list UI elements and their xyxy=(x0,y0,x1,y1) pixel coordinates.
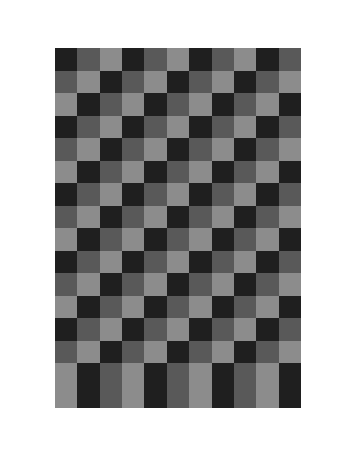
bottom-outer-frame-bar xyxy=(34,430,326,439)
grid-cell xyxy=(256,318,278,341)
grid-cell xyxy=(234,341,256,364)
grid-cell xyxy=(234,71,256,94)
grid-cell xyxy=(77,206,99,229)
grid-cell xyxy=(279,363,301,386)
grid-cell xyxy=(212,228,234,251)
grid-cell xyxy=(189,228,211,251)
grid-cell xyxy=(234,93,256,116)
grid-cell xyxy=(279,341,301,364)
grid-cell xyxy=(100,48,122,71)
grid-cell xyxy=(189,48,211,71)
grid-cell xyxy=(167,341,189,364)
grid-cell xyxy=(256,363,278,386)
grid-cell xyxy=(234,318,256,341)
grid-cell xyxy=(212,183,234,206)
grid-cell xyxy=(212,116,234,139)
grid-cell xyxy=(144,161,166,184)
grid-cell xyxy=(167,183,189,206)
pattern-canvas xyxy=(0,0,360,453)
grid-cell xyxy=(234,296,256,319)
grid-cell xyxy=(144,183,166,206)
grid-cell xyxy=(167,228,189,251)
grid-cell xyxy=(144,48,166,71)
grid-cell xyxy=(189,116,211,139)
grid-cell xyxy=(55,341,77,364)
grid-cell xyxy=(55,386,77,409)
grid-cell xyxy=(55,161,77,184)
grid-cell xyxy=(212,363,234,386)
grid-cell xyxy=(279,228,301,251)
grid-cell xyxy=(77,161,99,184)
grid-cell xyxy=(122,228,144,251)
grid-cell xyxy=(279,48,301,71)
grid-cell xyxy=(167,116,189,139)
grid-cell xyxy=(122,183,144,206)
grid-cell xyxy=(234,273,256,296)
top-outer-frame-bar xyxy=(34,15,326,24)
grid-cell xyxy=(256,341,278,364)
grid-cell xyxy=(234,138,256,161)
grid-cell xyxy=(100,161,122,184)
grid-cell xyxy=(279,318,301,341)
grid-cell xyxy=(77,138,99,161)
grid-cell xyxy=(189,273,211,296)
grid-cell xyxy=(167,93,189,116)
grid-cell xyxy=(144,138,166,161)
grid-cell xyxy=(189,161,211,184)
grid-cell xyxy=(279,116,301,139)
grid-cell xyxy=(189,363,211,386)
grid-cell xyxy=(189,296,211,319)
grid-cell xyxy=(144,363,166,386)
grid-cell xyxy=(55,296,77,319)
grid-cell xyxy=(100,116,122,139)
grid-cell xyxy=(100,71,122,94)
grid-cell xyxy=(167,296,189,319)
grid-cell xyxy=(55,363,77,386)
grid-cell xyxy=(212,296,234,319)
grid-cell xyxy=(77,93,99,116)
grid-cell xyxy=(77,48,99,71)
grid-cell xyxy=(234,116,256,139)
grid-cell xyxy=(256,273,278,296)
grid-cell xyxy=(212,93,234,116)
grid-cell xyxy=(144,228,166,251)
grid-cell xyxy=(144,273,166,296)
grid-cell xyxy=(189,71,211,94)
grid-cell xyxy=(279,183,301,206)
grid-cell xyxy=(212,48,234,71)
grid-cell xyxy=(77,116,99,139)
grid-cell xyxy=(279,296,301,319)
grid-cell xyxy=(212,71,234,94)
grid-cell xyxy=(167,386,189,409)
grid-cell xyxy=(144,318,166,341)
grid-cell xyxy=(144,386,166,409)
grid-cell xyxy=(256,93,278,116)
grid-cell xyxy=(100,228,122,251)
right-inner-frame-bar xyxy=(316,47,322,409)
grid-cell xyxy=(77,251,99,274)
grid-cell xyxy=(279,386,301,409)
grid-cell xyxy=(279,206,301,229)
grid-cell xyxy=(100,273,122,296)
grid-cell xyxy=(100,206,122,229)
grid-cell xyxy=(212,273,234,296)
grid-cell xyxy=(122,116,144,139)
grid-cell xyxy=(234,363,256,386)
grid-cell xyxy=(256,71,278,94)
grid-cell xyxy=(77,228,99,251)
grid-cell xyxy=(256,228,278,251)
grid-cell xyxy=(77,273,99,296)
grid-cell xyxy=(279,93,301,116)
left-inner-frame-bar xyxy=(38,47,44,409)
grid-cell xyxy=(256,206,278,229)
grid-cell xyxy=(100,93,122,116)
grid-cell xyxy=(122,386,144,409)
grid-cell xyxy=(212,138,234,161)
grid-cell xyxy=(256,161,278,184)
checkerboard-grid xyxy=(55,48,301,408)
grid-cell xyxy=(212,386,234,409)
grid-cell xyxy=(77,318,99,341)
grid-cell xyxy=(189,251,211,274)
grid-cell xyxy=(256,386,278,409)
grid-cell xyxy=(122,93,144,116)
